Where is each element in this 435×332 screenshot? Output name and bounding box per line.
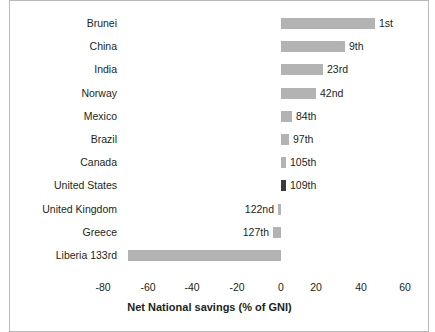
bar <box>281 88 316 99</box>
bar-rank-label: 1st <box>379 12 393 35</box>
bar <box>281 64 323 75</box>
x-tick-label: -40 <box>172 281 212 293</box>
x-tick-label: 60 <box>385 281 425 293</box>
bar <box>281 111 292 122</box>
bar-rank-label: 97th <box>293 128 313 151</box>
category-label: United Kingdom <box>0 198 117 221</box>
x-tick-label: -80 <box>83 281 123 293</box>
x-tick-label: 20 <box>296 281 336 293</box>
category-label: China <box>0 35 117 58</box>
x-axis-title: Net National savings (% of GNI) <box>0 301 435 313</box>
category-label: India <box>0 58 117 81</box>
bar-chart: Brunei1stChina9thIndia23rdNorway42ndMexi… <box>0 0 435 332</box>
bar-row: India23rd <box>0 58 435 81</box>
bar-row: Norway42nd <box>0 82 435 105</box>
bar-rank-label: 122nd <box>214 198 274 221</box>
bar <box>128 250 281 261</box>
category-label: Canada <box>0 151 117 174</box>
category-label: Mexico <box>0 105 117 128</box>
x-tick-label: 40 <box>341 281 381 293</box>
bar-rank-label: 42nd <box>320 82 343 105</box>
bar <box>278 204 281 215</box>
bar <box>281 180 286 191</box>
x-tick-label: 0 <box>261 281 301 293</box>
bar-row: United States109th <box>0 174 435 197</box>
bar-row: Brazil97th <box>0 128 435 151</box>
bar-row: Mexico84th <box>0 105 435 128</box>
x-tick-label: -20 <box>217 281 257 293</box>
bar-row: Liberia 133rd <box>0 244 435 267</box>
x-tick-label: -60 <box>128 281 168 293</box>
category-label: United States <box>0 174 117 197</box>
category-label: Brunei <box>0 12 117 35</box>
bar-row: Brunei1st <box>0 12 435 35</box>
category-label: Norway <box>0 82 117 105</box>
bar <box>281 18 375 29</box>
bar-rank-label: 9th <box>349 35 364 58</box>
bar-rank-label: 84th <box>296 105 316 128</box>
bar-rank-label: 109th <box>290 174 316 197</box>
category-label: Greece <box>0 221 117 244</box>
bar <box>281 41 345 52</box>
category-label: Brazil <box>0 128 117 151</box>
category-label: Liberia 133rd <box>0 244 117 267</box>
bar <box>281 157 286 168</box>
bar-row: United Kingdom122nd <box>0 198 435 221</box>
bar <box>273 227 281 238</box>
bar-rank-label: 23rd <box>327 58 348 81</box>
bar-row: Greece127th <box>0 221 435 244</box>
bar-row: China9th <box>0 35 435 58</box>
x-axis-title-text: Net National savings (% of GNI) <box>127 301 291 313</box>
bar <box>281 134 289 145</box>
bar-row: Canada105th <box>0 151 435 174</box>
bar-rank-label: 127th <box>209 221 269 244</box>
bar-rank-label: 105th <box>290 151 316 174</box>
